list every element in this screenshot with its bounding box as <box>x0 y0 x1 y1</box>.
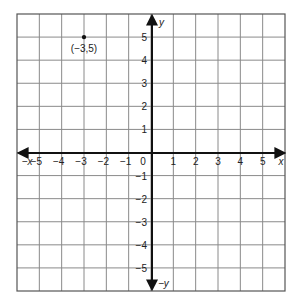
y-tick-label: −1 <box>136 171 148 182</box>
y-tick-label: −4 <box>136 240 148 251</box>
y-tick-label: −5 <box>136 263 148 274</box>
x-tick-label: −4 <box>53 156 65 167</box>
y-tick-label: 3 <box>141 78 147 89</box>
origin-label: 0 <box>140 156 146 167</box>
y-tick-label: 4 <box>141 55 147 66</box>
neg-x-axis-label: −x <box>22 156 34 167</box>
x-tick-label: 5 <box>260 156 266 167</box>
x-tick-label: −2 <box>98 156 110 167</box>
coordinate-plane: −5−4−3−2−112345 54321−1−2−3−4−5 0 x −x y… <box>0 0 302 304</box>
x-tick-label: 2 <box>193 156 199 167</box>
point-marker <box>82 35 86 39</box>
y-tick-label: 5 <box>141 32 147 43</box>
x-axis-label: x <box>278 156 285 167</box>
y-tick-label: 1 <box>141 124 147 135</box>
x-tick-label: 3 <box>215 156 221 167</box>
x-tick-labels: −5−4−3−2−112345 <box>31 156 266 167</box>
x-tick-label: −3 <box>75 156 87 167</box>
x-tick-label: −1 <box>120 156 132 167</box>
y-tick-label: −2 <box>136 194 148 205</box>
x-tick-label: 4 <box>238 156 244 167</box>
plotted-points: (−3,5) <box>71 35 97 54</box>
y-axis-label: y <box>158 17 165 28</box>
neg-y-axis-label: −y <box>158 278 170 289</box>
y-tick-label: −3 <box>136 217 148 228</box>
x-tick-label: 1 <box>171 156 177 167</box>
point-label: (−3,5) <box>71 43 97 54</box>
y-tick-label: 2 <box>141 101 147 112</box>
